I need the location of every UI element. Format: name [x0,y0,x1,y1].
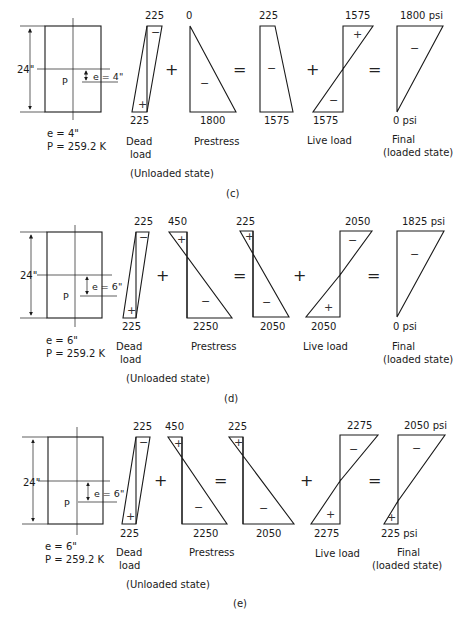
svg-text:225: 225 [228,421,247,432]
svg-text:+: + [138,98,147,111]
svg-text:24": 24" [20,270,37,281]
svg-text:(loaded state): (loaded state) [372,560,442,571]
svg-text:Final: Final [397,547,420,558]
svg-text:−: − [412,442,421,455]
svg-text:225: 225 [130,115,149,126]
stress-diagram-figure: 24" P e = 4" e = 4" P = 259.2 K 225 225 … [0,0,466,627]
svg-text:225: 225 [134,216,153,227]
svg-text:−: − [200,77,209,90]
svg-text:+: + [127,304,136,317]
svg-text:+: + [324,301,333,314]
svg-text:1800 psi: 1800 psi [400,10,443,21]
svg-text:Live load: Live load [307,135,352,146]
svg-text:−: − [139,231,148,244]
svg-text:Final: Final [392,134,415,145]
svg-text:+: + [177,233,186,246]
prestress-diagram: 450 2250 + − Prestress [168,216,237,352]
svg-text:P: P [64,498,70,509]
svg-text:−: − [349,443,358,456]
panel-caption: (c) [226,188,239,199]
svg-text:Prestress: Prestress [189,547,235,558]
svg-text:0 psi: 0 psi [393,321,417,332]
unloaded-sum-diagram: 225 2050 + − [228,421,294,539]
svg-text:+: + [293,266,306,285]
svg-text:−: − [201,295,210,308]
unloaded-sum-diagram: 225 1575 − [259,10,293,126]
svg-text:+: + [126,510,135,523]
svg-text:225: 225 [122,321,141,332]
svg-text:Prestress: Prestress [194,136,240,147]
svg-text:−: − [329,94,338,107]
svg-text:Dead: Dead [116,341,142,352]
beam-section: 24" P e = 6" e = 6" P = 259.2 K [20,225,122,359]
beam-rect [48,437,103,524]
svg-text:+: + [387,511,396,524]
beam-section: 24" P e = 6" e = 6" P = 259.2 K [22,427,124,565]
svg-text:1825 psi: 1825 psi [402,216,445,227]
unloaded-state-label: (Unloaded state) [126,579,210,590]
svg-text:1575: 1575 [264,115,289,126]
e-value: e = 4" [47,128,79,139]
svg-text:(loaded state): (loaded state) [383,147,453,158]
svg-text:e = 6": e = 6" [45,541,77,552]
p-label: P [62,76,68,87]
svg-text:2275: 2275 [314,528,339,539]
live-load-diagram: 2050 2050 − + Live load [303,216,372,352]
final-diagram: 1800 psi 0 psi − Final (loaded state) [383,10,453,158]
svg-text:+: + [156,266,169,285]
svg-text:P = 259.2 K: P = 259.2 K [45,554,105,565]
svg-text:−: − [410,42,419,55]
svg-text:2050: 2050 [260,321,285,332]
plus-operator: + [165,60,178,79]
prestress-diagram: 0 1800 − Prestress [186,10,240,147]
svg-text:−: − [410,248,419,261]
p-value: P = 259.2 K [47,141,107,152]
svg-text:e = 6": e = 6" [46,335,78,346]
svg-text:225: 225 [145,10,164,21]
svg-text:2250: 2250 [193,528,218,539]
unloaded-state-label: (Unloaded state) [126,373,210,384]
svg-text:+: + [174,437,183,450]
svg-text:−: − [194,501,203,514]
panel-caption: (d) [224,393,238,404]
svg-text:−: − [139,436,148,449]
svg-text:1575: 1575 [313,115,338,126]
svg-text:2050: 2050 [256,528,281,539]
equals-operator: = [368,60,381,79]
depth-label: 24" [17,64,34,75]
svg-text:−: − [262,296,271,309]
equals-operator: = [233,60,246,79]
svg-text:0 psi: 0 psi [393,115,417,126]
svg-text:load: load [130,149,151,160]
svg-text:450: 450 [168,216,187,227]
final-diagram: 1825 psi 0 psi − Final (loaded state) [383,216,453,365]
svg-text:Dead: Dead [116,547,142,558]
svg-text:P: P [63,291,69,302]
svg-text:450: 450 [165,421,184,432]
panel-caption: (e) [233,598,247,609]
svg-text:Dead: Dead [126,136,152,147]
svg-text:e = 6": e = 6" [94,488,124,499]
svg-text:−: − [259,502,268,515]
svg-text:225: 225 [120,528,139,539]
svg-text:2275: 2275 [347,420,372,431]
svg-text:Final: Final [392,341,415,352]
svg-text:225: 225 [259,10,278,21]
svg-text:e = 6": e = 6" [92,281,122,292]
svg-text:−: − [348,234,357,247]
svg-text:2250: 2250 [193,321,218,332]
svg-text:+: + [300,471,313,490]
svg-text:+: + [353,28,362,41]
svg-text:−: − [267,62,276,75]
svg-text:P = 259.2 K: P = 259.2 K [46,348,106,359]
svg-text:+: + [245,230,254,243]
panel-e: 24" P e = 6" e = 6" P = 259.2 K 225 225 … [22,420,447,609]
svg-text:load: load [120,354,141,365]
svg-text:2050: 2050 [345,216,370,227]
svg-text:225 psi: 225 psi [381,528,418,539]
svg-text:1575: 1575 [345,10,370,21]
beam-section: 24" P e = 4" e = 4" P = 259.2 K [17,18,123,152]
svg-text:Live load: Live load [315,548,360,559]
svg-text:(loaded state): (loaded state) [383,354,453,365]
plus-operator: + [306,60,319,79]
